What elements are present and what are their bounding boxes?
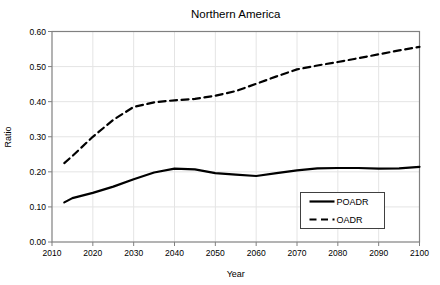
y-tick-label: 0.30 (29, 132, 46, 142)
x-tick-label: 2040 (165, 248, 184, 258)
x-tick-label: 2070 (288, 248, 307, 258)
dependency-ratio-line-chart: 0.000.100.200.300.400.500.60201020202030… (0, 0, 440, 285)
x-tick-label: 2020 (83, 248, 102, 258)
x-tick-label: 2080 (328, 248, 347, 258)
y-tick-label: 0.50 (29, 62, 46, 72)
x-tick-label: 2050 (206, 248, 225, 258)
x-tick-label: 2010 (43, 248, 62, 258)
x-tick-label: 2100 (410, 248, 429, 258)
y-tick-label: 0.60 (29, 27, 46, 37)
y-tick-label: 0.40 (29, 97, 46, 107)
legend: POADROADR (301, 193, 385, 229)
chart-title: Northern America (191, 8, 281, 20)
x-axis-label: Year (227, 269, 245, 279)
y-tick-label: 0.10 (29, 202, 46, 212)
y-axis-label: Ratio (3, 126, 13, 147)
series-line-oadr (64, 47, 419, 163)
x-tick-label: 2090 (369, 248, 388, 258)
x-tick-label: 2030 (124, 248, 143, 258)
series-layer (64, 47, 419, 203)
x-tick-label: 2060 (247, 248, 266, 258)
y-tick-label: 0.20 (29, 167, 46, 177)
legend-label-poadr: POADR (337, 197, 370, 207)
chart-figure: 0.000.100.200.300.400.500.60201020202030… (0, 0, 440, 285)
legend-label-oadr: OADR (337, 215, 364, 225)
y-tick-label: 0.00 (29, 237, 46, 247)
